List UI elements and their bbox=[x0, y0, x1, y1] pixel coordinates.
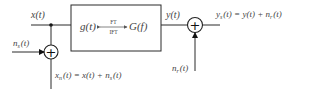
output-noise-label: nr(t) bbox=[172, 63, 188, 74]
noisy-output-label: ys(t) = y(t) + nr(t) bbox=[215, 9, 282, 20]
ift-label: IFT bbox=[109, 29, 118, 35]
block-diagram: x(t) + ns(t) xn(t) = x(t) + ns(t) g(t) F… bbox=[0, 0, 309, 93]
input-noise-label: ns(t) bbox=[13, 38, 29, 49]
svg-text:+: + bbox=[190, 18, 201, 33]
impulse-response-label: g(t) bbox=[80, 20, 96, 33]
output-label: y(t) bbox=[165, 9, 181, 21]
ft-label: FT bbox=[110, 19, 117, 25]
input-label: x(t) bbox=[30, 9, 46, 21]
input-sum-junction: + bbox=[44, 45, 58, 60]
output-sum-junction: + bbox=[188, 18, 203, 33]
transfer-function-label: G(f) bbox=[129, 20, 148, 33]
noisy-input-label: xn(t) = x(t) + ns(t) bbox=[54, 70, 121, 81]
svg-text:+: + bbox=[46, 45, 57, 60]
